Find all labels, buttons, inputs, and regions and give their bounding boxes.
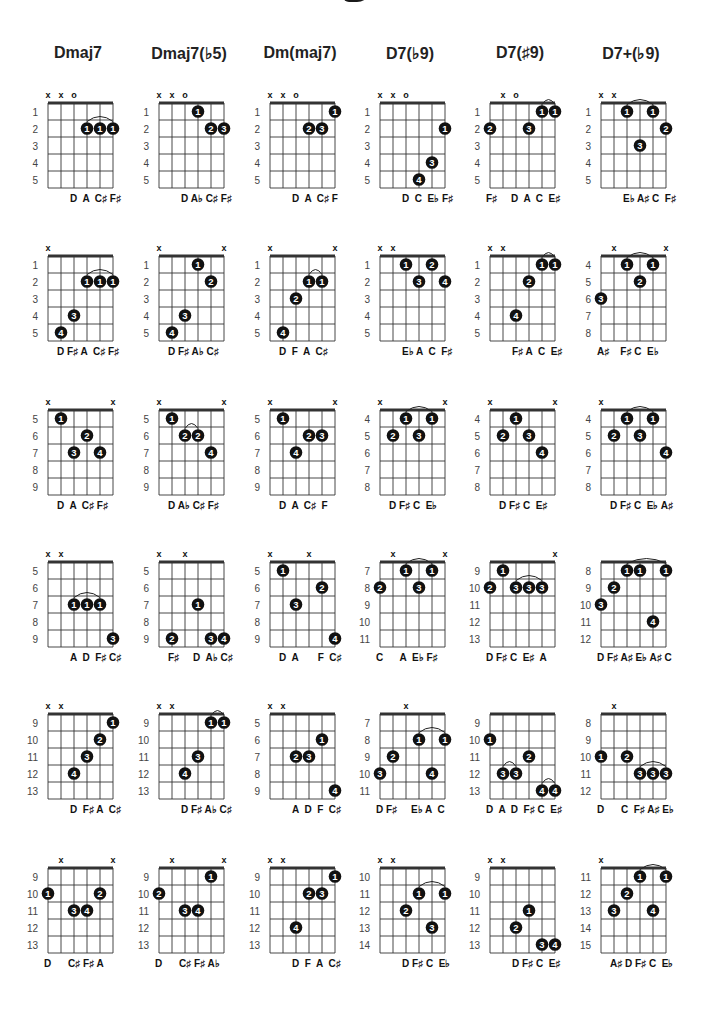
fret-number: 3 bbox=[585, 141, 591, 152]
svg-text:4: 4 bbox=[58, 327, 64, 338]
finger-dot-icon: 2 bbox=[179, 429, 192, 442]
fret-number: 5 bbox=[585, 277, 591, 288]
muted-string-icon: x bbox=[169, 701, 174, 711]
muted-string-icon: x bbox=[156, 90, 161, 100]
svg-text:3: 3 bbox=[71, 905, 76, 916]
fret-number: 13 bbox=[359, 923, 371, 934]
svg-text:3: 3 bbox=[71, 310, 76, 321]
svg-text:1: 1 bbox=[526, 905, 532, 916]
finger-dot-icon: 1 bbox=[107, 122, 120, 135]
fret-number: 6 bbox=[585, 448, 591, 459]
fret-number: 7 bbox=[585, 311, 591, 322]
finger-dot-icon: 2 bbox=[484, 581, 497, 594]
fret-number: 6 bbox=[364, 448, 370, 459]
svg-text:1: 1 bbox=[97, 123, 103, 134]
fret-number: 6 bbox=[254, 431, 260, 442]
muted-string-icon: x bbox=[221, 243, 226, 253]
fret-number: 10 bbox=[469, 583, 481, 594]
svg-text:1: 1 bbox=[663, 871, 669, 882]
muted-string-icon: x bbox=[45, 397, 50, 407]
chord-diagram: 12345xo2311F♯ D A C E♯ bbox=[450, 83, 560, 233]
chord-notes-label: D A C♯ F♯ bbox=[70, 193, 121, 204]
finger-dot-icon: 1 bbox=[303, 275, 316, 288]
svg-text:2: 2 bbox=[403, 905, 408, 916]
svg-text:3: 3 bbox=[526, 430, 531, 441]
chord-notes-label: D A♭ C♯ F♯ bbox=[168, 500, 219, 511]
chord-diagram: 12345xxo123D A C♯ F bbox=[230, 83, 340, 233]
fret-number: 8 bbox=[585, 566, 591, 577]
finger-dot-icon: 1 bbox=[549, 105, 562, 118]
svg-text:3: 3 bbox=[319, 123, 324, 134]
svg-text:1: 1 bbox=[637, 871, 643, 882]
finger-dot-icon: 1 bbox=[400, 564, 413, 577]
fret-number: 11 bbox=[360, 889, 371, 900]
barre-arc-icon bbox=[309, 270, 322, 275]
svg-text:2: 2 bbox=[306, 888, 311, 899]
chord-diagram: 12345xxo123D A♭ C♯ F♯ bbox=[119, 83, 229, 233]
fret-number: 3 bbox=[254, 141, 260, 152]
finger-dot-icon: 3 bbox=[179, 309, 192, 322]
svg-text:3: 3 bbox=[513, 768, 518, 779]
fret-number: 9 bbox=[474, 872, 480, 883]
finger-dot-icon: 4 bbox=[536, 784, 549, 797]
muted-string-icon: x bbox=[332, 243, 337, 253]
finger-dot-icon: 3 bbox=[510, 581, 523, 594]
fret-number: 2 bbox=[143, 277, 149, 288]
muted-string-icon: x bbox=[267, 397, 272, 407]
svg-text:1: 1 bbox=[403, 259, 409, 270]
finger-dot-icon: 2 bbox=[400, 904, 413, 917]
fret-number: 4 bbox=[474, 311, 480, 322]
chord-diagram: 1112131415x11234A♯ D F♯ C E♭ bbox=[561, 848, 671, 998]
svg-text:3: 3 bbox=[598, 599, 603, 610]
fret-number: 9 bbox=[254, 482, 260, 493]
chord-column-header: Dmaj7(♭5) bbox=[134, 44, 244, 63]
fret-number: 11 bbox=[360, 634, 371, 645]
fret-number: 8 bbox=[364, 482, 370, 493]
finger-dot-icon: 3 bbox=[68, 446, 81, 459]
finger-dot-icon: 2 bbox=[94, 733, 107, 746]
fret-number: 10 bbox=[359, 617, 371, 628]
fret-number: 8 bbox=[32, 465, 38, 476]
fret-number: 8 bbox=[364, 735, 370, 746]
chord-notes-label: D F♯ C E♭ A♯ bbox=[610, 500, 673, 511]
finger-dot-icon: 2 bbox=[290, 292, 303, 305]
chord-notes-label: A♯ F♯ C E♭ bbox=[597, 346, 659, 357]
fret-number: 12 bbox=[469, 923, 481, 934]
chord-diagram: 56789xx1224D A♭ C♯ F♯ bbox=[119, 390, 229, 540]
fret-number: 9 bbox=[364, 752, 370, 763]
fret-number: 1 bbox=[364, 107, 370, 118]
muted-string-icon: x bbox=[169, 90, 174, 100]
fret-number: 9 bbox=[474, 566, 480, 577]
fret-number: 4 bbox=[585, 260, 591, 271]
svg-text:1: 1 bbox=[110, 276, 116, 287]
fret-number: 12 bbox=[469, 769, 481, 780]
svg-text:3: 3 bbox=[513, 582, 518, 593]
fret-number: 3 bbox=[254, 294, 260, 305]
fret-number: 4 bbox=[585, 414, 591, 425]
svg-text:2: 2 bbox=[97, 734, 102, 745]
chord-notes-label: A♯ D F♯ C E♭ bbox=[610, 958, 673, 969]
finger-dot-icon: 4 bbox=[94, 446, 107, 459]
fret-number: 9 bbox=[254, 872, 260, 883]
barre-arc-icon bbox=[185, 424, 198, 429]
finger-dot-icon: 4 bbox=[510, 309, 523, 322]
chord-diagram: 89101112111234D F♯ A♯ E♭ A♯ C bbox=[561, 542, 671, 692]
muted-string-icon: x bbox=[58, 855, 63, 865]
finger-dot-icon: 2 bbox=[303, 887, 316, 900]
finger-dot-icon: 1 bbox=[94, 275, 107, 288]
muted-string-icon: x bbox=[390, 243, 395, 253]
fret-number: 5 bbox=[474, 175, 480, 186]
fret-number: 3 bbox=[32, 294, 38, 305]
fret-number: 4 bbox=[32, 158, 38, 169]
finger-dot-icon: 1 bbox=[523, 904, 536, 917]
finger-dot-icon: 1 bbox=[549, 258, 562, 271]
fret-number: 5 bbox=[254, 414, 260, 425]
chord-notes-label: A D F C♯ bbox=[292, 804, 341, 815]
muted-string-icon: x bbox=[487, 855, 492, 865]
fret-number: 11 bbox=[470, 752, 481, 763]
svg-text:2: 2 bbox=[377, 582, 382, 593]
chord-column-header: D7(♭9) bbox=[355, 44, 465, 63]
svg-text:4: 4 bbox=[280, 327, 286, 338]
svg-text:4: 4 bbox=[293, 922, 299, 933]
finger-dot-icon: 2 bbox=[510, 921, 523, 934]
